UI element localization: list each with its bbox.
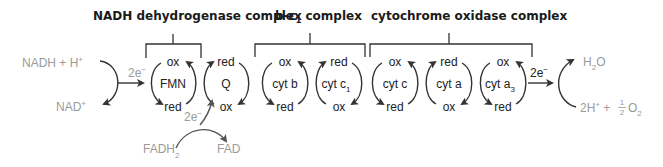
- svg-text:FMN: FMN: [160, 77, 186, 91]
- electrons-in-label: 2e−: [128, 65, 146, 80]
- svg-text:red: red: [330, 55, 347, 69]
- fad-label: FAD: [217, 142, 241, 156]
- svg-text:cyt a3: cyt a3: [485, 77, 515, 94]
- svg-text:2H+ +: 2H+ +: [580, 100, 610, 115]
- svg-text:red: red: [217, 55, 234, 69]
- complex-label-nadh-dehydrogenase: NADH dehydrogenase complex: [93, 9, 302, 23]
- svg-text:1: 1: [620, 98, 625, 107]
- carrier-fmn: ox FMN red: [151, 55, 196, 114]
- svg-text:Q: Q: [221, 77, 230, 91]
- oxygen-label: 2H+ + 1 2 O2: [580, 98, 642, 118]
- svg-text:ox: ox: [497, 55, 510, 69]
- svg-text:ox: ox: [389, 55, 402, 69]
- svg-text:red: red: [276, 100, 293, 114]
- carrier-cyt-a3: ox cyt a3 red: [480, 55, 526, 114]
- complex-label-cytochrome-oxidase: cytochrome oxidase complex: [371, 9, 568, 23]
- svg-text:ox: ox: [443, 100, 456, 114]
- nadh-label: NADH + H+: [22, 55, 83, 70]
- water-label: H2O: [583, 55, 605, 72]
- electrons-out-label: 2e−: [530, 65, 548, 80]
- svg-text:2: 2: [620, 108, 625, 117]
- electron-transport-chain-diagram: NADH dehydrogenase complex b-c1 complex …: [0, 0, 663, 167]
- fadh2-label: FADH2: [143, 142, 180, 160]
- svg-text:red: red: [386, 100, 403, 114]
- svg-text:cyt b: cyt b: [272, 77, 298, 91]
- carrier-cyt-c: ox cyt c red: [372, 55, 418, 114]
- oxygen-reduction-arrow: [559, 60, 576, 107]
- bracket-cytochrome-oxidase: [370, 33, 532, 57]
- svg-text:cyt c: cyt c: [383, 77, 408, 91]
- carrier-cyt-a: red cyt a ox: [426, 55, 472, 114]
- svg-text:cyt c1: cyt c1: [321, 77, 351, 94]
- svg-text:O2: O2: [628, 101, 642, 118]
- svg-text:cyt a: cyt a: [436, 77, 462, 91]
- svg-text:red: red: [440, 55, 457, 69]
- svg-text:ox: ox: [333, 100, 346, 114]
- svg-text:red: red: [164, 100, 181, 114]
- carrier-cyt-b: ox cyt b red: [262, 55, 308, 114]
- electrons-fad-label: 2e−: [184, 109, 202, 124]
- svg-text:ox: ox: [220, 100, 233, 114]
- carrier-cyt-c1: red cyt c1 ox: [316, 55, 362, 114]
- bracket-bc1: [255, 33, 365, 57]
- svg-text:ox: ox: [279, 55, 292, 69]
- nad-label: NAD+: [56, 99, 86, 114]
- svg-text:red: red: [494, 100, 511, 114]
- nadh-oxidation-arrow: [100, 61, 118, 104]
- complex-label-bc1: b-c1 complex: [275, 9, 362, 25]
- svg-text:ox: ox: [167, 55, 180, 69]
